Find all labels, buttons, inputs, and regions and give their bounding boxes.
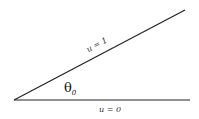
diagram-svg: u = 1 θ0 u = 0 bbox=[0, 0, 199, 119]
angle-symbol: θ bbox=[64, 80, 72, 95]
wedge-diagram: u = 1 θ0 u = 0 bbox=[0, 0, 199, 119]
upper-line-label: u = 1 bbox=[85, 36, 109, 54]
upper-boundary-line bbox=[14, 10, 185, 100]
angle-subscript: 0 bbox=[72, 89, 77, 97]
angle-label: θ0 bbox=[64, 80, 77, 97]
lower-line-label: u = 0 bbox=[99, 105, 121, 114]
